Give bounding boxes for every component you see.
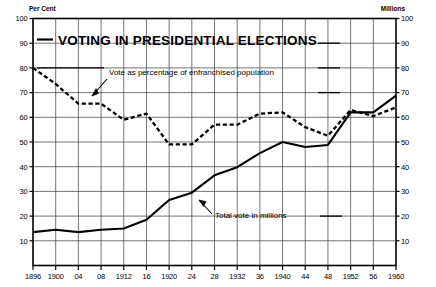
ytick-label-right-60: 60: [401, 113, 409, 122]
ytick-label-left-20: 20: [20, 212, 28, 221]
ytick-label-right-20: 20: [401, 212, 409, 221]
annotation-millions-label: Total vote in millions: [215, 211, 287, 220]
ytick-label-right-100: 100: [401, 14, 413, 23]
ytick-label-left-70: 70: [20, 88, 28, 97]
xtick-label-1936: 36: [256, 272, 264, 281]
ytick-label-left-60: 60: [20, 113, 28, 122]
right-axis-unit-label: Millions: [381, 5, 406, 12]
xtick-label-1948: 48: [324, 272, 332, 281]
xtick-label-1908: 08: [97, 272, 105, 281]
xtick-label-1956: 56: [369, 272, 377, 281]
ytick-label-left-30: 30: [20, 187, 28, 196]
ytick-label-left-80: 80: [20, 64, 28, 73]
annotation-percentage-label: Vote as percentage of enfranchised popul…: [109, 68, 274, 77]
xtick-label-1960: 1960: [388, 272, 404, 281]
chart-title: VOTING IN PRESIDENTIAL ELECTIONS: [58, 33, 317, 48]
ytick-label-right-40: 40: [401, 163, 409, 172]
ytick-label-right-80: 80: [401, 64, 409, 73]
ytick-label-right-30: 30: [401, 187, 409, 196]
ytick-label-left-40: 40: [20, 163, 28, 172]
ytick-label-left-90: 90: [20, 39, 28, 48]
xtick-label-1912: 1912: [116, 272, 132, 281]
xtick-label-1920: 1920: [161, 272, 177, 281]
xtick-label-1924: 24: [188, 272, 196, 281]
ytick-label-right-70: 70: [401, 88, 409, 97]
xtick-label-1932: 1932: [229, 272, 245, 281]
xtick-label-1904: 04: [74, 272, 82, 281]
ytick-label-left-10: 10: [20, 237, 28, 246]
left-axis-unit-label: Per Cent: [29, 5, 57, 12]
xtick-label-1896: 1896: [25, 272, 41, 281]
ytick-label-left-50: 50: [20, 138, 28, 147]
xtick-label-1928: 28: [211, 272, 219, 281]
ytick-label-right-50: 50: [401, 138, 409, 147]
ytick-label-left-100: 100: [16, 14, 28, 23]
xtick-label-1900: 1900: [48, 272, 64, 281]
ytick-label-right-10: 10: [401, 237, 409, 246]
ytick-label-right-90: 90: [401, 39, 409, 48]
xtick-label-1916: 16: [142, 272, 150, 281]
xtick-label-1940: 1940: [275, 272, 291, 281]
chart-container: 1009080706050403020101009080706050403020…: [0, 0, 436, 287]
xtick-label-1944: 44: [301, 272, 309, 281]
voting-in-presidential-elections-chart: 1009080706050403020101009080706050403020…: [0, 0, 436, 287]
xtick-label-1952: 1952: [343, 272, 359, 281]
